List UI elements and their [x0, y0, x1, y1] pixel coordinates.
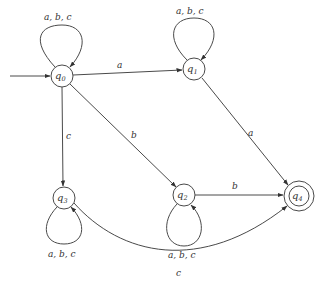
label-q3-q4: c — [176, 268, 181, 278]
label-q0-q3: c — [66, 131, 71, 141]
edge-q0-q1 — [73, 70, 182, 75]
edge-q0-q3 — [62, 87, 63, 186]
state-q4-accept: q4 — [284, 181, 314, 211]
label-q2-q2: a, b, c — [168, 250, 196, 260]
label-q1-q4: a — [248, 128, 253, 138]
edge-q2-q2 — [167, 204, 202, 246]
state-q1: q1 — [183, 58, 205, 80]
automaton-diagram: a, b, c a b c a, b, c a a, b, c b a, b, … — [0, 0, 327, 286]
label-q3-q3: a, b, c — [48, 249, 76, 259]
edge-q0-q0 — [40, 25, 82, 67]
label-q1-q1: a, b, c — [176, 6, 204, 16]
edge-q1-q4 — [202, 78, 288, 185]
state-q2: q2 — [173, 184, 195, 206]
state-q0: q0 — [51, 65, 73, 87]
edge-q0-q2 — [70, 84, 176, 187]
label-q2-q4: b — [232, 181, 238, 191]
edge-q1-q1 — [174, 18, 214, 60]
label-q0-q2: b — [131, 130, 137, 140]
edge-q3-q3 — [46, 207, 81, 244]
label-q0-q1: a — [117, 60, 122, 70]
edge-q3-q4 — [74, 203, 287, 250]
label-q0-q0: a, b, c — [44, 12, 72, 22]
state-q3: q3 — [53, 187, 75, 209]
